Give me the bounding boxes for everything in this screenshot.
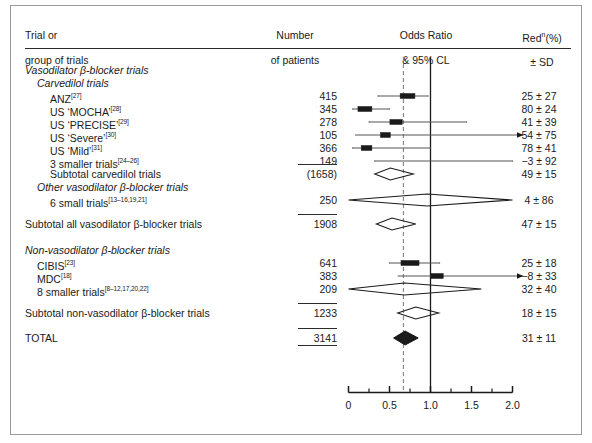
subtotal-rule [298, 345, 337, 346]
row-patient-count: 105 [253, 128, 337, 142]
table-row: 3 smaller trials[24–26]149−3 ± 92 [0, 154, 592, 168]
table-row: MDC[18]383−8 ± 33 [0, 269, 592, 283]
row-label-text: 8 smaller trials [37, 286, 105, 298]
row-label-text: 6 small trials [50, 197, 108, 209]
row-label-text: Subtotal all vasodilator β-blocker trial… [25, 218, 202, 230]
subtotal-rule [298, 164, 337, 165]
row-label-reference: [23] [64, 259, 74, 266]
table-row: 6 small trials[13–16,19,21]2504 ± 86 [0, 193, 592, 207]
row-label: 6 small trials[13–16,19,21] [50, 193, 147, 210]
row-label-reference: [30] [105, 131, 115, 138]
row-label-text: Subtotal carvedilol trials [50, 168, 161, 180]
table-row: US ‘MOCHA’[28]34580 ± 24 [0, 102, 592, 116]
row-reduction-value: 31 ± 11 [500, 331, 578, 345]
row-label-text: TOTAL [25, 332, 58, 344]
row-reduction-value: 4 ± 86 [500, 193, 578, 207]
row-label: 8 smaller trials[8–12,17,20,22] [37, 282, 148, 299]
row-patient-count: 1908 [253, 217, 337, 231]
row-patient-count: 415 [253, 89, 337, 103]
row-reduction-value: −3 ± 92 [500, 154, 578, 168]
row-label-text: Other vasodilator β-blocker trials [37, 181, 188, 193]
row-label-reference: [29] [118, 118, 128, 125]
forest-plot-figure: Trial or group of trials Number of patie… [0, 0, 592, 443]
row-label: Subtotal non-vasodilator β-blocker trial… [25, 306, 210, 320]
table-rows: Vasodilator β-blocker trialsCarvedilol t… [0, 0, 592, 443]
row-label: Other vasodilator β-blocker trials [37, 180, 188, 194]
row-label-reference: [28] [110, 105, 120, 112]
table-row: CIBIS[23]64125 ± 18 [0, 256, 592, 270]
x-axis-tick-label: 1.5 [452, 399, 492, 411]
x-axis-tick-label: 0 [329, 399, 369, 411]
table-row: US ‘Mild’[31]36678 ± 41 [0, 141, 592, 155]
row-label-text: Carvedilol trials [37, 77, 109, 89]
row-patient-count: 209 [253, 282, 337, 296]
row-patient-count: 250 [253, 193, 337, 207]
x-axis-tick-label: 2.0 [493, 399, 533, 411]
row-label: Non-vasodilator β-blocker trials [25, 243, 170, 257]
row-patient-count: (1658) [253, 167, 337, 181]
row-reduction-value: 80 ± 24 [500, 102, 578, 116]
row-label: Subtotal carvedilol trials [50, 167, 161, 181]
table-row: ANZ[27]41525 ± 27 [0, 89, 592, 103]
row-patient-count: 345 [253, 102, 337, 116]
row-label-reference: [18] [61, 272, 71, 279]
row-label: Vasodilator β-blocker trials [25, 63, 149, 77]
table-row: Subtotal carvedilol trials(1658)49 ± 15 [0, 167, 592, 181]
table-row: Subtotal all vasodilator β-blocker trial… [0, 217, 592, 231]
row-reduction-value: 47 ± 15 [500, 217, 578, 231]
table-row: Subtotal non-vasodilator β-blocker trial… [0, 306, 592, 320]
row-reduction-value: 41 ± 39 [500, 115, 578, 129]
x-axis-tick-label: 1.0 [411, 399, 451, 411]
table-row: 8 smaller trials[8–12,17,20,22]20932 ± 4… [0, 282, 592, 296]
row-reduction-value: 49 ± 15 [500, 167, 578, 181]
row-label-text: Subtotal non-vasodilator β-blocker trial… [25, 307, 210, 319]
row-patient-count: 3141 [253, 331, 337, 345]
row-reduction-value: 25 ± 27 [500, 89, 578, 103]
row-patient-count: 366 [253, 141, 337, 155]
row-patient-count: 641 [253, 256, 337, 270]
row-patient-count: 278 [253, 115, 337, 129]
table-row: Vasodilator β-blocker trials [0, 63, 592, 77]
row-reduction-value: 54 ± 75 [500, 128, 578, 142]
table-row: TOTAL314131 ± 11 [0, 331, 592, 345]
table-row: Carvedilol trials [0, 76, 592, 90]
table-row: US ‘Severe’[30]10554 ± 75 [0, 128, 592, 142]
row-label-reference: [24–26] [118, 157, 139, 164]
subtotal-rule [298, 328, 337, 329]
subtotal-rule [298, 214, 337, 215]
table-row: Other vasodilator β-blocker trials [0, 180, 592, 194]
row-label-text: Non-vasodilator β-blocker trials [25, 244, 170, 256]
subtotal-rule [298, 303, 337, 304]
row-patient-count: 1233 [253, 306, 337, 320]
row-patient-count: 149 [253, 154, 337, 168]
row-label-reference: [13–16,19,21] [108, 196, 146, 203]
row-label: Subtotal all vasodilator β-blocker trial… [25, 217, 202, 231]
row-reduction-value: −8 ± 33 [500, 269, 578, 283]
table-row: Non-vasodilator β-blocker trials [0, 243, 592, 257]
row-label-text: Vasodilator β-blocker trials [25, 64, 149, 76]
row-reduction-value: 18 ± 15 [500, 306, 578, 320]
row-label-reference: [8–12,17,20,22] [105, 285, 149, 292]
row-patient-count: 383 [253, 269, 337, 283]
row-label: Carvedilol trials [37, 76, 109, 90]
row-reduction-value: 78 ± 41 [500, 141, 578, 155]
row-label-reference: [31] [91, 144, 101, 151]
row-reduction-value: 25 ± 18 [500, 256, 578, 270]
row-label-reference: [27] [71, 92, 81, 99]
table-row: US ‘PRECISE’[29]27841 ± 39 [0, 115, 592, 129]
x-axis-tick-label: 0.5 [370, 399, 410, 411]
row-reduction-value: 32 ± 40 [500, 282, 578, 296]
row-label: TOTAL [25, 331, 58, 345]
